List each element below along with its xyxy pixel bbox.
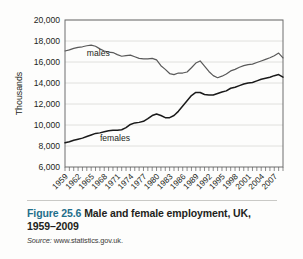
y-tick-label: 8,000 (38, 141, 60, 151)
y-tick-label: 10,000 (34, 120, 61, 130)
y-tick-label: 20,000 (34, 15, 61, 25)
y-tick-label: 6,000 (38, 162, 60, 172)
source-label: Source: (27, 236, 52, 245)
y-tick-label: 16,000 (34, 57, 61, 67)
figure-caption: Figure 25.6 Male and female employment, … (27, 207, 282, 233)
y-axis-title: Thousands (14, 71, 24, 115)
figure-number: Figure 25.6 (27, 207, 81, 219)
caption-divider (27, 200, 277, 201)
caption-block: Figure 25.6 Male and female employment, … (0, 198, 303, 259)
y-tick-label: 14,000 (34, 78, 61, 88)
y-axis-title-text: Thousands (14, 71, 24, 115)
series-label-males: males (87, 48, 110, 58)
source-url: www.statistics.gov.uk. (54, 236, 123, 245)
y-tick-label: 18,000 (34, 36, 61, 46)
chart-container: 6,0008,00010,00012,00014,00016,00018,000… (0, 0, 303, 198)
line-chart: 6,0008,00010,00012,00014,00016,00018,000… (0, 0, 303, 198)
source-line: Source: www.statistics.gov.uk. (27, 236, 287, 246)
y-tick-label: 12,000 (34, 99, 61, 109)
series-label-females: females (100, 133, 130, 143)
figure-page: 6,0008,00010,00012,00014,00016,00018,000… (0, 0, 303, 259)
